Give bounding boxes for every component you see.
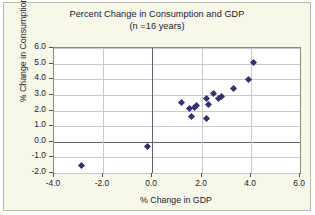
chart-subtitle: (n =16 years) (4, 20, 310, 32)
x-tick-mark (201, 173, 202, 177)
x-tick-mark (53, 173, 54, 177)
x-tick-mark (151, 173, 152, 177)
data-point (230, 85, 237, 92)
gridline-horizontal (54, 64, 300, 65)
data-point (144, 143, 151, 150)
x-tick-label: 6.0 (279, 179, 315, 188)
x-tick-mark (250, 173, 251, 177)
y-tick-mark (49, 47, 53, 48)
y-tick-label: 3.0 (4, 89, 46, 98)
y-tick-mark (49, 156, 53, 157)
gridline-horizontal (54, 157, 300, 158)
gridline-horizontal (54, 48, 300, 49)
plot-area (54, 48, 300, 173)
y-tick-label: 6.0 (4, 42, 46, 51)
data-point (78, 162, 85, 169)
y-tick-mark (49, 94, 53, 95)
gridline-vertical (202, 48, 203, 173)
x-axis-label: % Change in GDP (53, 195, 299, 205)
gridline-horizontal (54, 173, 300, 174)
y-tick-label: 0.0 (4, 136, 46, 145)
gridline-vertical (251, 48, 252, 173)
y-tick-mark (49, 141, 53, 142)
chart-title: Percent Change in Consumption and GDP (4, 8, 310, 20)
y-tick-mark (49, 125, 53, 126)
y-tick-mark (49, 110, 53, 111)
gridline-horizontal (54, 126, 300, 127)
y-tick-label: 1.0 (4, 120, 46, 129)
data-point (188, 113, 195, 120)
plot-frame (53, 47, 301, 174)
x-tick-mark (102, 173, 103, 177)
gridline-vertical (103, 48, 104, 173)
x-tick-mark (299, 173, 300, 177)
x-tick-label: 4.0 (230, 179, 270, 188)
chart-figure: Percent Change in Consumption and GDP (n… (3, 2, 311, 211)
y-tick-label: 5.0 (4, 58, 46, 67)
y-tick-label: 4.0 (4, 73, 46, 82)
x-tick-label: -2.0 (82, 179, 122, 188)
y-tick-label: 2.0 (4, 105, 46, 114)
data-point (203, 115, 210, 122)
gridline-horizontal (54, 142, 300, 143)
x-tick-label: -4.0 (33, 179, 73, 188)
gridline-horizontal (54, 111, 300, 112)
data-point (205, 101, 212, 108)
y-tick-mark (49, 63, 53, 64)
data-point (178, 99, 185, 106)
y-tick-label: -1.0 (4, 151, 46, 160)
gridline-horizontal (54, 95, 300, 96)
x-tick-label: 2.0 (181, 179, 221, 188)
x-tick-label: 0.0 (131, 179, 171, 188)
y-tick-mark (49, 78, 53, 79)
gridline-horizontal (54, 79, 300, 80)
gridline-vertical (152, 48, 153, 173)
y-tick-label: -2.0 (4, 167, 46, 176)
chart-title-block: Percent Change in Consumption and GDP (n… (4, 8, 310, 32)
